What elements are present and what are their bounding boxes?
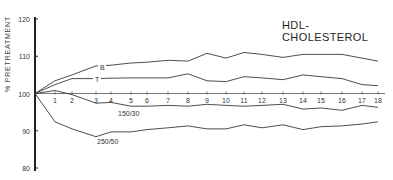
x-tick-label: 6	[145, 97, 149, 104]
y-tick-label: 120	[18, 16, 30, 23]
x-tick-label: 8	[186, 97, 190, 104]
series-label-T: T	[95, 76, 100, 83]
series-label-250-50: 250/50	[97, 138, 119, 145]
series-line-B	[35, 53, 378, 94]
x-tick-label: 15	[317, 97, 325, 104]
x-tick-label: 13	[279, 97, 287, 104]
x-tick-label: 16	[338, 97, 346, 104]
series-lines	[35, 53, 378, 137]
x-tick-label: 17	[358, 97, 366, 104]
x-tick-label: 10	[222, 97, 230, 104]
y-axis-label: % PRETREATMENT	[4, 16, 11, 92]
x-tick-label: 1	[53, 97, 57, 104]
y-tick-label: 90	[22, 128, 30, 135]
series-labels: BT150/30250/50	[93, 63, 144, 146]
series-line-T	[35, 74, 378, 94]
chart-title: HDL-CHOLESTEROL	[282, 19, 393, 43]
x-tick-label: 12	[258, 97, 266, 104]
x-tick-label: 5	[129, 97, 133, 104]
x-tick-label: 18	[374, 97, 382, 104]
x-tick-label: 11	[240, 97, 247, 104]
series-label-150-30: 150/30	[118, 110, 140, 117]
y-tick-label: 110	[19, 53, 30, 60]
series-label-B: B	[100, 64, 105, 71]
y-tick-label: 80	[22, 165, 30, 172]
y-tick-label: 100	[18, 91, 30, 98]
x-tick-label: 9	[205, 97, 209, 104]
x-tick-label: 14	[299, 97, 307, 104]
x-tick-label: 7	[166, 97, 170, 104]
x-tick-label: 2	[70, 97, 74, 104]
